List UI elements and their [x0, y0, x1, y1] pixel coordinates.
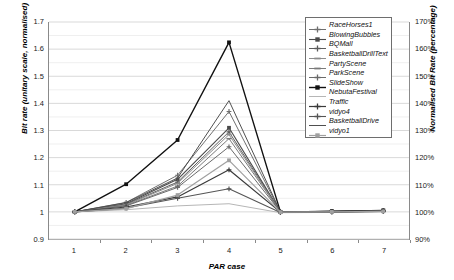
legend-item-basketballdrilltext[interactable]: BasketballDrillText — [308, 49, 388, 59]
legend-item-blowingbubbles[interactable]: BlowingBubbles — [308, 30, 388, 40]
legend-item-bqmall[interactable]: BQMall — [308, 39, 388, 49]
legend-marker-icon — [308, 87, 327, 96]
y-axis-left-tick-label: 0.9 — [14, 236, 44, 244]
x-axis-tick-label: 5 — [266, 247, 296, 255]
legend-marker-icon — [308, 59, 327, 68]
y-axis-left-title: Bit rate (unitary scale, normalised) — [20, 0, 29, 149]
legend-marker-icon — [308, 97, 327, 106]
legend-label: BasketballDrive — [329, 117, 379, 124]
legend-marker-icon — [308, 49, 327, 58]
legend-item-traffic[interactable]: Traffic — [308, 97, 388, 107]
legend-label: BlowingBubbles — [329, 31, 380, 38]
legend-marker-icon — [308, 116, 327, 125]
legend-marker-icon — [308, 20, 327, 29]
legend-item-vidyo1[interactable]: vidyo1 — [308, 126, 388, 136]
x-axis-tick-mark — [307, 240, 308, 243]
y-axis-left-tick-label: 1 — [14, 209, 44, 217]
legend-label: PartyScene — [329, 60, 366, 67]
y-axis-left-tick-label: 1.4 — [14, 100, 44, 108]
legend-item-partyscene[interactable]: PartyScene — [308, 58, 388, 68]
legend-label: SlideShow — [329, 79, 363, 86]
legend-item-parkscene[interactable]: ParkScene — [308, 68, 388, 78]
x-axis-tick-label: 6 — [317, 247, 347, 255]
legend-label: NebutaFestival — [329, 88, 377, 95]
x-axis-tick-label: 7 — [369, 247, 399, 255]
x-axis-title: PAR case — [0, 262, 454, 271]
y-axis-right-title: Normalised Bit Rate (percentage) — [428, 0, 437, 149]
y-axis-left-tick-label: 1.6 — [14, 45, 44, 53]
legend-item-basketballdrive[interactable]: BasketballDrive — [308, 116, 388, 126]
legend-label: BasketballDrillText — [329, 50, 388, 57]
y-axis-left-tick-label: 1.7 — [14, 18, 44, 26]
legend-item-nebutafestival[interactable]: NebutaFestival — [308, 87, 388, 97]
legend-marker-icon — [308, 126, 327, 135]
x-axis-tick-label: 4 — [214, 247, 244, 255]
legend-marker-icon — [308, 39, 327, 48]
legend-marker-icon — [308, 30, 327, 39]
x-axis-tick-label: 1 — [59, 247, 89, 255]
legend-item-racehorses1[interactable]: RaceHorses1 — [308, 20, 388, 30]
y-axis-left-tick-label: 1.2 — [14, 154, 44, 162]
legend-marker-icon — [308, 78, 327, 87]
y-axis-right-tick-label: 110% — [415, 182, 449, 190]
y-axis-right-tick-label: 120% — [415, 154, 449, 162]
legend-item-vidyo4[interactable]: vidyo4 — [308, 106, 388, 116]
legend-label: ParkScene — [329, 69, 364, 76]
x-axis-tick-mark — [358, 240, 359, 243]
x-axis-tick-mark — [410, 240, 411, 243]
y-axis-left-tick-label: 1.1 — [14, 182, 44, 190]
x-axis-tick-mark — [151, 240, 152, 243]
x-axis-tick-label: 2 — [111, 247, 141, 255]
x-axis-tick-mark — [100, 240, 101, 243]
x-axis-tick-mark — [203, 240, 204, 243]
y-axis-left-tick-label: 1.3 — [14, 127, 44, 135]
chart-container: 0.911.11.21.31.41.51.61.7 90%100%110%120… — [0, 0, 454, 280]
legend-label: vidyo4 — [329, 108, 350, 115]
y-axis-right-tick-label: 90% — [415, 236, 449, 244]
x-axis-tick-mark — [255, 240, 256, 243]
legend-marker-icon — [308, 68, 327, 77]
legend: RaceHorses1BlowingBubblesBQMallBasketbal… — [305, 17, 392, 138]
legend-label: vidyo1 — [329, 127, 350, 134]
legend-marker-icon — [308, 107, 327, 116]
legend-label: BQMall — [329, 40, 353, 47]
x-axis-tick-label: 3 — [162, 247, 192, 255]
legend-item-slideshow[interactable]: SlideShow — [308, 78, 388, 88]
legend-label: Traffic — [329, 98, 348, 105]
y-axis-right-tick-label: 100% — [415, 209, 449, 217]
y-axis-left-tick-label: 1.5 — [14, 73, 44, 81]
legend-label: RaceHorses1 — [329, 21, 373, 28]
